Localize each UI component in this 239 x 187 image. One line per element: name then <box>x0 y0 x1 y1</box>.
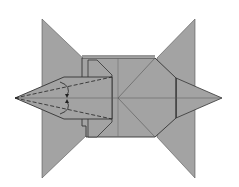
origami-diagram <box>0 0 239 187</box>
